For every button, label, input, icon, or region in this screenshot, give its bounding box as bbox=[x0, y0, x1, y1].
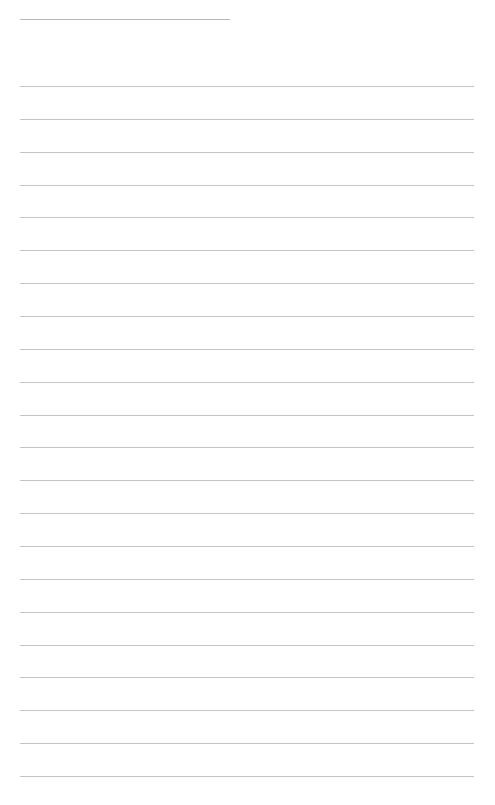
ruled-line bbox=[20, 677, 474, 678]
ruled-line bbox=[20, 776, 474, 777]
ruled-line bbox=[20, 480, 474, 481]
ruled-line bbox=[20, 185, 474, 186]
ruled-line bbox=[20, 349, 474, 350]
ruled-line bbox=[20, 743, 474, 744]
ruled-line bbox=[20, 579, 474, 580]
ruled-line bbox=[20, 283, 474, 284]
ruled-line bbox=[20, 513, 474, 514]
ruled-line bbox=[20, 217, 474, 218]
ruled-line bbox=[20, 447, 474, 448]
ruled-line bbox=[20, 645, 474, 646]
title-line bbox=[20, 19, 230, 20]
ruled-line bbox=[20, 86, 474, 87]
ruled-line bbox=[20, 612, 474, 613]
ruled-line bbox=[20, 382, 474, 383]
ruled-line bbox=[20, 152, 474, 153]
ruled-line bbox=[20, 119, 474, 120]
ruled-line bbox=[20, 316, 474, 317]
ruled-line bbox=[20, 710, 474, 711]
ruled-line bbox=[20, 250, 474, 251]
ruled-line bbox=[20, 546, 474, 547]
ruled-line bbox=[20, 415, 474, 416]
